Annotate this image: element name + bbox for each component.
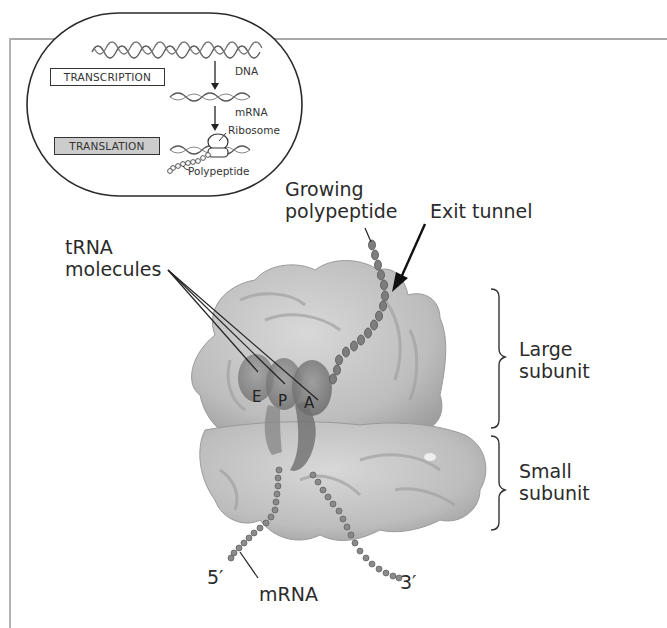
large-subunit-label: Large subunit: [519, 338, 590, 382]
inset-ribosome-label: Ribosome: [228, 124, 280, 136]
e-site-label: E: [252, 388, 261, 406]
p-site-label: P: [278, 392, 287, 410]
ribosome-body: [192, 261, 486, 541]
a-site-label: A: [304, 394, 314, 412]
inset-oval: [27, 13, 302, 196]
transcription-box: TRANSCRIPTION: [50, 68, 165, 86]
mrna-label: mRNA: [259, 583, 318, 605]
five-prime-label: 5′: [207, 566, 223, 588]
small-subunit-label: Small subunit: [519, 460, 590, 504]
inset-polypeptide-label: Polypeptide: [188, 165, 249, 177]
growing-polypeptide-label: Growing polypeptide: [285, 178, 398, 222]
exit-tunnel-label: Exit tunnel: [430, 200, 533, 222]
trna-molecules-label: tRNA molecules: [65, 236, 161, 280]
large-subunit-brace: [491, 289, 505, 428]
exit-tunnel-arrow: [392, 224, 425, 292]
inset-mrna-label: mRNA: [235, 106, 268, 118]
diagram-graphics: [0, 0, 667, 628]
three-prime-label: 3′: [400, 571, 416, 593]
small-subunit-brace: [491, 436, 505, 530]
inset-dna-label: DNA: [235, 65, 258, 77]
translation-box: TRANSLATION: [54, 137, 160, 155]
